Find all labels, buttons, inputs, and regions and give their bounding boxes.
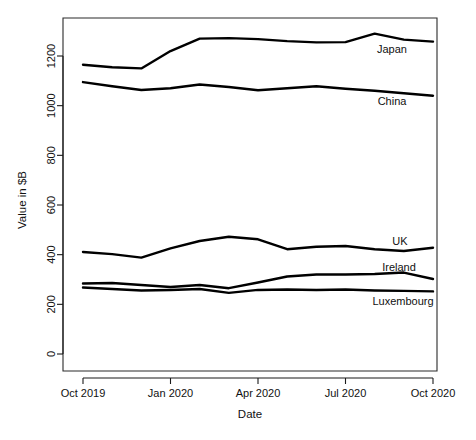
x-axis: Oct 2019Jan 2020Apr 2020Jul 2020Oct 2020 (61, 378, 456, 399)
x-tick-label-apr-2020: Apr 2020 (236, 387, 281, 399)
y-tick-label-200: 200 (45, 295, 57, 313)
series-line-china (83, 82, 433, 96)
series-line-uk (83, 237, 433, 258)
series-label-luxembourg: Luxembourg (372, 295, 433, 307)
series-label-japan: Japan (377, 43, 407, 55)
x-axis-title: Date (238, 408, 262, 420)
y-tick-label-800: 800 (45, 146, 57, 164)
y-tick-label-1200: 1200 (45, 44, 57, 68)
series-line-ireland (83, 273, 433, 289)
x-tick-label-oct-2019: Oct 2019 (61, 387, 106, 399)
series-labels: JapanChinaUKIrelandLuxembourg (372, 43, 433, 307)
x-tick-label-jan-2020: Jan 2020 (148, 387, 193, 399)
y-axis: 020040060080010001200 (45, 44, 63, 357)
y-tick-label-400: 400 (45, 245, 57, 263)
y-tick-label-1000: 1000 (45, 93, 57, 117)
series-label-uk: UK (392, 235, 408, 247)
x-tick-label-jul-2020: Jul 2020 (325, 387, 367, 399)
series-label-china: China (378, 95, 408, 107)
plot-frame-group (63, 18, 437, 371)
plot-frame (63, 18, 437, 371)
line-chart: 020040060080010001200 Oct 2019Jan 2020Ap… (0, 0, 476, 440)
chart-svg: 020040060080010001200 Oct 2019Jan 2020Ap… (0, 0, 476, 440)
y-axis-title: Value in $B (16, 171, 28, 229)
y-tick-label-0: 0 (45, 351, 57, 357)
y-tick-label-600: 600 (45, 196, 57, 214)
series-lines (83, 34, 433, 293)
series-label-ireland: Ireland (382, 261, 416, 273)
series-line-luxembourg (83, 287, 433, 292)
x-tick-label-oct-2020: Oct 2020 (411, 387, 456, 399)
